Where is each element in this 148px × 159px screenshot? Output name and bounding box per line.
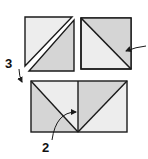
top-right-square	[81, 18, 131, 69]
quilt-assembly-diagram: 3 2	[0, 0, 148, 159]
step-3-arrow	[19, 69, 22, 82]
step-3-label: 3	[5, 56, 12, 71]
bottom-block	[31, 81, 127, 132]
step-2-label: 2	[42, 140, 49, 155]
top-left-square	[25, 17, 74, 71]
